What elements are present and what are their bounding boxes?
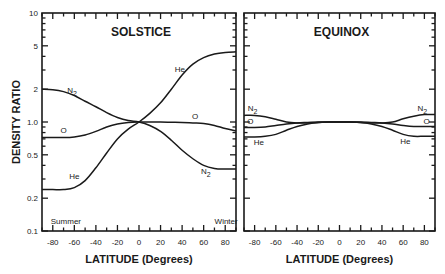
- curve-label-o: O: [247, 117, 253, 126]
- x-tick-label: -20: [312, 238, 324, 247]
- x-tick-label: -80: [47, 238, 59, 247]
- curve-label-o: O: [60, 126, 66, 135]
- panel-equinox: -80-60-40-20020406080EQUINOXLATITUDE (De…: [244, 13, 435, 265]
- curve-label-he: He: [400, 137, 411, 146]
- x-tick-label: -40: [90, 238, 102, 247]
- panel-title: EQUINOX: [314, 25, 369, 39]
- curve-label-n2: N2: [201, 167, 211, 178]
- x-tick-label: 0: [137, 238, 142, 247]
- curve-label-o: O: [423, 117, 429, 126]
- curve-label-n2: N2: [248, 104, 258, 115]
- y-tick-label: 10: [29, 9, 38, 18]
- y-tick-label: 1.0: [27, 118, 39, 127]
- curve-he: [42, 52, 236, 190]
- curve-label-n2: N2: [67, 86, 77, 97]
- x-tick-label: 80: [420, 238, 429, 247]
- panels-group: -80-60-40-200204060800.10.20.51.02510SOL…: [27, 9, 435, 265]
- x-tick-label: 60: [399, 238, 408, 247]
- x-tick-label: 40: [377, 238, 386, 247]
- curve-o: [42, 122, 236, 138]
- curve-label-o: O: [192, 112, 198, 121]
- y-axis-label: DENSITY RATIO: [10, 80, 22, 164]
- density-ratio-chart: DENSITY RATIO -80-60-40-200204060800.10.…: [0, 0, 445, 274]
- x-tick-label: 20: [156, 238, 165, 247]
- curve-o: [244, 122, 435, 128]
- curve-label-he: He: [254, 138, 265, 147]
- curve-n2: [42, 89, 236, 169]
- y-tick-label: 0.1: [27, 227, 39, 236]
- x-tick-label: -80: [249, 238, 261, 247]
- curve-label-he: He: [175, 65, 186, 74]
- x-tick-label: -20: [112, 238, 124, 247]
- x-tick-label: 20: [356, 238, 365, 247]
- x-tick-label: 60: [199, 238, 208, 247]
- y-tick-label: 5: [34, 42, 39, 51]
- annotation-winter: Winter: [215, 217, 238, 226]
- x-axis-label: LATITUDE (Degrees): [286, 253, 394, 265]
- y-tick-label: 2: [34, 85, 39, 94]
- x-tick-label: -60: [270, 238, 282, 247]
- x-tick-label: 0: [337, 238, 342, 247]
- x-tick-label: -60: [69, 238, 81, 247]
- curve-he: [244, 122, 435, 137]
- x-tick-label: 80: [221, 238, 230, 247]
- x-axis-label: LATITUDE (Degrees): [85, 253, 193, 265]
- annotation-summer: Summer: [51, 217, 82, 226]
- curve-label-n2: N2: [417, 104, 427, 115]
- panel-solstice: -80-60-40-200204060800.10.20.51.02510SOL…: [27, 9, 238, 265]
- y-tick-label: 0.5: [27, 151, 39, 160]
- curve-label-he: He: [69, 172, 80, 181]
- x-tick-label: -40: [291, 238, 303, 247]
- x-tick-label: 40: [178, 238, 187, 247]
- y-tick-label: 0.2: [27, 194, 39, 203]
- panel-title: SOLSTICE: [111, 25, 171, 39]
